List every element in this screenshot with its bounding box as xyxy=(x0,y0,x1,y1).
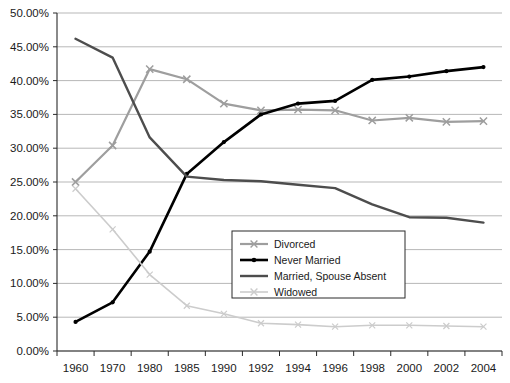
data-point-marker xyxy=(259,112,263,116)
legend-label: Married, Spouse Absent xyxy=(274,270,386,282)
y-tick-label: 50.00% xyxy=(10,7,49,19)
series-line xyxy=(76,39,484,223)
y-tick-label: 45.00% xyxy=(10,41,49,53)
x-tick-label: 1960 xyxy=(63,362,89,374)
x-tick-label: 2004 xyxy=(471,362,497,374)
data-point-marker xyxy=(296,101,300,105)
y-tick-label: 5.00% xyxy=(16,311,49,323)
series-divorced xyxy=(72,66,487,186)
y-tick-label: 35.00% xyxy=(10,108,49,120)
x-tick-label: 1980 xyxy=(137,362,163,374)
data-point-marker xyxy=(148,250,152,254)
legend-marker-dot-icon xyxy=(252,258,257,263)
y-axis-ticks-group: 0.00%5.00%10.00%15.00%20.00%25.00%30.00%… xyxy=(10,7,57,357)
x-tick-label: 1998 xyxy=(359,362,385,374)
series-married-spouse-absent xyxy=(76,39,484,223)
y-tick-label: 40.00% xyxy=(10,75,49,87)
y-tick-label: 25.00% xyxy=(10,176,49,188)
data-point-marker xyxy=(481,65,485,69)
x-tick-label: 1994 xyxy=(285,362,311,374)
y-tick-label: 15.00% xyxy=(10,244,49,256)
y-tick-label: 10.00% xyxy=(10,277,49,289)
legend-label: Widowed xyxy=(274,286,317,298)
legend-group: DivorcedNever MarriedMarried, Spouse Abs… xyxy=(232,231,405,298)
chart-container: 0.00%5.00%10.00%15.00%20.00%25.00%30.00%… xyxy=(0,0,510,383)
x-tick-label: 2000 xyxy=(396,362,422,374)
data-point-marker xyxy=(111,300,115,304)
line-chart-plot: 0.00%5.00%10.00%15.00%20.00%25.00%30.00%… xyxy=(0,0,510,383)
y-tick-label: 20.00% xyxy=(10,210,49,222)
x-tick-label: 1985 xyxy=(174,362,200,374)
data-point-marker xyxy=(370,78,374,82)
y-tick-label: 30.00% xyxy=(10,142,49,154)
series-line xyxy=(76,69,484,182)
data-point-marker xyxy=(147,272,153,278)
legend-label: Never Married xyxy=(274,254,341,266)
data-point-marker xyxy=(110,226,116,232)
x-tick-label: 1992 xyxy=(248,362,274,374)
x-tick-label: 1990 xyxy=(211,362,237,374)
x-tick-label: 1970 xyxy=(100,362,126,374)
data-point-marker xyxy=(222,140,226,144)
x-axis-ticks-group: 1960197019801985199019921994199619982000… xyxy=(57,351,502,374)
data-point-marker xyxy=(73,186,79,192)
data-point-marker xyxy=(444,69,448,73)
data-point-marker xyxy=(333,99,337,103)
legend-label: Divorced xyxy=(274,238,316,250)
data-point-marker xyxy=(73,320,77,324)
data-point-marker xyxy=(407,74,411,78)
x-tick-label: 1996 xyxy=(322,362,348,374)
x-tick-label: 2002 xyxy=(434,362,460,374)
y-tick-label: 0.00% xyxy=(16,345,49,357)
